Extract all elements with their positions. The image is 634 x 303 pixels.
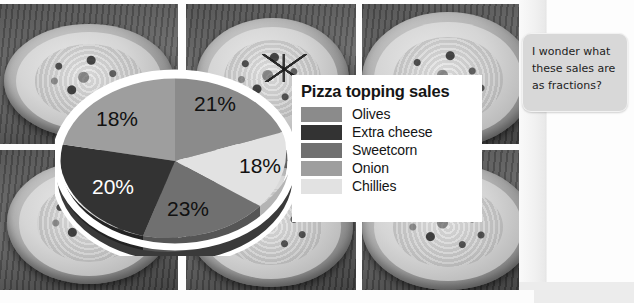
legend-item-onion: Onion (292, 159, 482, 177)
legend-label-olives: Olives (342, 106, 390, 122)
pie-label-olives: 21% (194, 92, 236, 115)
pie-label-sweetcorn: 23% (167, 197, 209, 220)
legend-swatch-extra-cheese (301, 125, 342, 140)
speech-callout: I wonder what these sales are as fractio… (522, 33, 628, 112)
legend-label-sweetcorn: Sweetcorn (342, 142, 417, 158)
legend-swatch-olives (301, 107, 342, 122)
legend-item-extra-cheese: Extra cheese (292, 123, 482, 141)
pie-label-chillies: 18% (239, 154, 281, 177)
chart-legend: Pizza topping sales Olives Extra cheese … (292, 75, 482, 222)
pie-chart: 21% 18% 23% 20% 18% (55, 66, 295, 256)
legend-swatch-sweetcorn (301, 143, 342, 158)
page-background: 21% 18% 23% 20% 18% Pizza topping sales … (0, 0, 634, 303)
page-bottom-fold (519, 282, 634, 303)
pie-label-onion: 18% (96, 107, 138, 130)
legend-item-sweetcorn: Sweetcorn (292, 141, 482, 159)
callout-line-2: these sales are (532, 62, 615, 75)
page-footer-strip (0, 290, 534, 303)
legend-label-extra-cheese: Extra cheese (342, 124, 433, 140)
legend-swatch-onion (301, 161, 342, 176)
pie-label-extra-cheese: 20% (92, 175, 134, 198)
legend-swatch-chillies (301, 179, 342, 194)
callout-line-3: as fractions? (532, 79, 602, 92)
legend-title: Pizza topping sales (292, 75, 482, 105)
legend-item-chillies: Chillies (292, 177, 482, 195)
legend-item-olives: Olives (292, 105, 482, 123)
legend-label-chillies: Chillies (342, 178, 396, 194)
pie-chart-svg: 21% 18% 23% 20% 18% (55, 66, 295, 256)
callout-line-1: I wonder what (532, 45, 610, 58)
legend-label-onion: Onion (342, 160, 389, 176)
